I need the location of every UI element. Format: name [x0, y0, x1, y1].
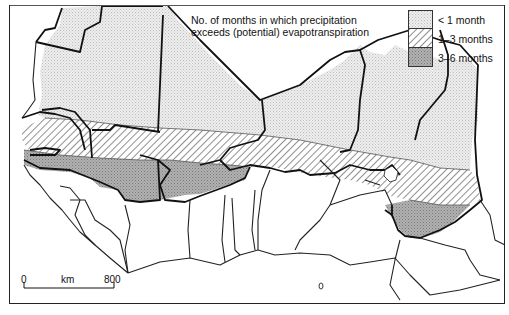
scale-end: 800: [104, 274, 121, 285]
legend-item-less-than-1-month: < 1 month: [408, 10, 493, 29]
scale-start: 0: [21, 274, 27, 285]
legend-label: 3–6 months: [438, 52, 493, 64]
legend-item-3-to-6-months: 3–6 months: [408, 48, 493, 67]
scale-unit: km: [61, 274, 74, 285]
map-legend: < 1 month 1–3 months 3–6 months: [408, 10, 493, 67]
legend-title: No. of months in which precipitation exc…: [191, 14, 369, 38]
bioko-island: [319, 283, 323, 289]
dotted-swatch-icon: [408, 10, 433, 29]
map-frame-top: [9, 5, 505, 6]
legend-label: < 1 month: [438, 14, 485, 26]
legend-title-line1: No. of months in which precipitation: [191, 14, 369, 26]
hatched-swatch-icon: [408, 29, 433, 48]
legend-title-line2: exceeds (potential) evapotranspiration: [191, 26, 369, 38]
zone-3-to-6-months-east: [385, 200, 470, 238]
dark-swatch-icon: [408, 48, 433, 67]
legend-label: 1–3 months: [438, 33, 493, 45]
legend-item-1-to-3-months: 1–3 months: [408, 29, 493, 48]
